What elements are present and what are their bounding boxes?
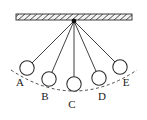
position-label-e: E (123, 76, 130, 88)
position-label-c: C (68, 98, 75, 110)
position-label-a: A (16, 76, 24, 88)
pendulum-bob-a (20, 61, 34, 75)
hatch-line (5, 13, 14, 21)
hatch-line (137, 13, 146, 21)
position-label-d: D (98, 90, 106, 102)
pendulum-string-d (74, 21, 96, 71)
pendulum-diagram-canvas: ABCDE (0, 0, 147, 120)
pendulum-bob-b (42, 72, 56, 86)
pendulum-string-e (74, 21, 115, 62)
pendulum-string-a (32, 21, 74, 63)
pendulum-figure: ABCDE (0, 0, 147, 120)
pendulum-string-b (52, 21, 74, 72)
pendulum-bobs (20, 60, 127, 91)
position-label-b: B (41, 90, 48, 102)
pendulum-bob-e (113, 60, 127, 74)
pendulum-bob-c (67, 77, 81, 91)
pendulum-bob-d (92, 71, 106, 85)
pivot-point-dot (72, 19, 76, 23)
pendulum-strings (32, 21, 115, 77)
